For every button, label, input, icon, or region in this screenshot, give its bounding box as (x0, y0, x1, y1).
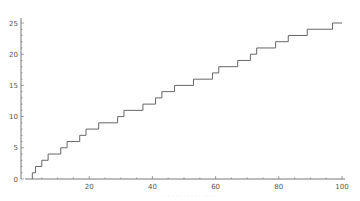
step-series-line (32, 23, 342, 179)
y-tick-label: 5 (14, 144, 18, 152)
chart-caption: · · · · · · · · · · · · · · (164, 192, 216, 199)
x-tick-label: 100 (335, 183, 348, 191)
x-axis-ticks: 20406080100 (42, 176, 349, 191)
x-tick-label: 40 (148, 183, 157, 191)
y-tick-label: 10 (9, 113, 18, 121)
x-tick-label: 80 (274, 183, 283, 191)
y-tick-label: 15 (9, 82, 18, 90)
axes: · · · · · · · · · · · · · · (21, 18, 345, 199)
x-tick-label: 20 (85, 183, 94, 191)
y-axis-ticks: 0510152025 (9, 20, 24, 184)
y-tick-label: 20 (9, 51, 18, 59)
x-tick-label: 60 (211, 183, 220, 191)
y-tick-label: 0 (14, 176, 18, 184)
y-tick-label: 25 (9, 20, 18, 28)
step-chart: · · · · · · · · · · · · · · 0510152025 2… (0, 0, 360, 201)
